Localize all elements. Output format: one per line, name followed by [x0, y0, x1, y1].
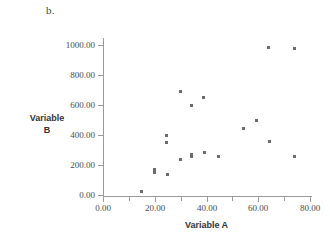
x-axis-tick [129, 197, 130, 201]
y-axis-tick-label: 0.00 [33, 190, 95, 200]
x-axis-tick [155, 197, 156, 202]
scatter-plot-figure: b. 0.00200.00400.00600.00800.001000.00 0… [0, 0, 330, 241]
y-axis-title-line-1: Variable [30, 113, 65, 123]
x-axis-tick [310, 197, 311, 202]
data-point [166, 173, 169, 176]
data-point [268, 140, 271, 143]
x-axis-tick [181, 197, 182, 201]
y-axis-tick [98, 105, 103, 106]
data-point [242, 127, 245, 130]
x-axis-tick [258, 197, 259, 202]
panel-label: b. [46, 4, 55, 16]
y-axis-tick [98, 45, 103, 46]
data-point [140, 190, 143, 193]
data-point [202, 96, 205, 99]
y-axis-tick-label: 200.00 [33, 160, 95, 170]
data-point [165, 141, 168, 144]
y-axis-title-line-2: B [12, 124, 82, 136]
data-point [153, 171, 156, 174]
y-axis-tick-label: 1000.00 [33, 40, 95, 50]
data-point [217, 155, 220, 158]
data-point [203, 151, 206, 154]
data-point [190, 155, 193, 158]
y-axis-line [103, 38, 104, 196]
x-axis-tick [284, 197, 285, 201]
y-axis-tick [98, 75, 103, 76]
data-point [190, 104, 193, 107]
data-point [267, 46, 270, 49]
x-axis-tick-label: 80.00 [288, 203, 330, 213]
y-axis-title: Variable B [12, 112, 82, 136]
data-point [293, 155, 296, 158]
x-axis-tick [207, 197, 208, 202]
data-point [255, 119, 258, 122]
x-axis-tick [103, 197, 104, 202]
y-axis-tick [98, 165, 103, 166]
y-axis-tick [98, 195, 103, 196]
x-axis-title: Variable A [103, 220, 310, 230]
y-axis-tick [98, 135, 103, 136]
x-axis-tick-label: 20.00 [133, 203, 177, 213]
x-axis-tick-label: 40.00 [185, 203, 229, 213]
x-axis-tick-label: 0.00 [81, 203, 125, 213]
y-axis-tick-label: 800.00 [33, 70, 95, 80]
y-axis-tick-label: 600.00 [33, 100, 95, 110]
data-point [165, 134, 168, 137]
x-axis-tick-label: 60.00 [236, 203, 280, 213]
data-point [179, 158, 182, 161]
x-axis-tick [232, 197, 233, 201]
data-point [179, 90, 182, 93]
data-point [293, 47, 296, 50]
